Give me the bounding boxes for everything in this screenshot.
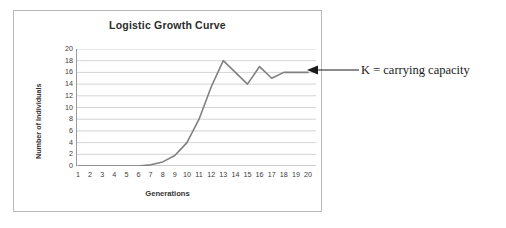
y-tick-label: 0 [51, 162, 73, 169]
y-tick-label: 8 [51, 115, 73, 122]
chart-frame: Logistic Growth Curve Number of Individu… [13, 10, 322, 212]
x-axis-tick-labels: 1234567891011121314151617181920 [76, 171, 316, 183]
y-tick-label: 10 [51, 104, 73, 111]
y-tick-label: 6 [51, 127, 73, 134]
y-tick-label: 14 [51, 80, 73, 87]
population-curve [78, 61, 308, 166]
y-tick-label: 12 [51, 92, 73, 99]
y-axis-title: Number of Individuals [32, 73, 46, 169]
gridlines [76, 49, 316, 166]
x-tick-label: 20 [301, 171, 315, 178]
plot-area [76, 49, 316, 166]
line-chart-svg [76, 49, 316, 166]
y-axis-tick-labels: 02468101214161820 [48, 49, 73, 166]
chart-title: Logistic Growth Curve [14, 19, 321, 31]
left-arrow-icon [307, 62, 359, 78]
y-tick-label: 20 [51, 45, 73, 52]
y-tick-label: 2 [51, 150, 73, 157]
y-tick-label: 16 [51, 68, 73, 75]
y-tick-label: 18 [51, 57, 73, 64]
x-axis-title: Generations [14, 189, 321, 198]
carrying-capacity-annotation: K = carrying capacity [361, 62, 470, 78]
y-tick-label: 4 [51, 139, 73, 146]
